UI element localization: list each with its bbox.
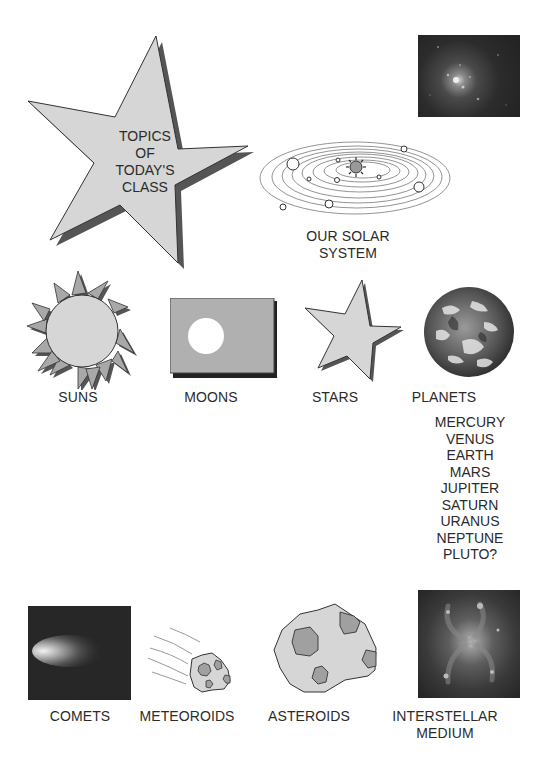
sun-graphic: [20, 265, 145, 390]
meteoroid-icon: [140, 620, 250, 700]
comet-photo: [28, 606, 131, 700]
title-line: CLASS: [116, 179, 175, 196]
title-line: TOPICS: [116, 128, 175, 145]
meteoroids-label: METEOROIDS: [139, 708, 234, 725]
planet-list: MERCURY VENUS EARTH MARS JUPITER SATURN …: [435, 414, 506, 563]
comets-label: COMETS: [50, 708, 111, 725]
spiral-arms-icon: [418, 590, 520, 698]
solar-system-icon: [255, 135, 455, 225]
asteroids-label: ASTEROIDS: [268, 708, 350, 725]
planet-uranus: URANUS: [435, 513, 506, 530]
label-line: OUR SOLAR: [306, 228, 389, 245]
sun-icon: [20, 265, 145, 390]
planet-venus: VENUS: [435, 431, 506, 448]
label-line: SYSTEM: [306, 245, 389, 262]
stars-label: STARS: [312, 389, 358, 406]
moon-graphic: [170, 298, 280, 382]
planet-mercury: MERCURY: [435, 414, 506, 431]
earth-graphic: [422, 286, 516, 380]
planet-mars: MARS: [435, 464, 506, 481]
asteroid-graphic: [270, 600, 385, 700]
meteoroid-graphic: [140, 620, 250, 700]
label-line: INTERSTELLAR: [392, 708, 497, 725]
star-icon: [300, 275, 410, 385]
title-star-text: TOPICS OF TODAY'S CLASS: [116, 128, 175, 196]
comet-icon: [28, 606, 131, 700]
solar-system-label: OUR SOLAR SYSTEM: [306, 228, 389, 262]
star-dots-icon: [418, 35, 520, 117]
title-line: OF: [116, 145, 175, 162]
star-cluster-photo: [418, 35, 520, 117]
title-line: TODAY'S: [116, 162, 175, 179]
moon-icon: [170, 298, 280, 382]
moons-label: MOONS: [184, 389, 237, 406]
planet-earth: EARTH: [435, 447, 506, 464]
earth-icon: [422, 286, 516, 380]
star-graphic: [300, 275, 410, 385]
planets-label: PLANETS: [412, 389, 477, 406]
planet-saturn: SATURN: [435, 497, 506, 514]
planet-pluto: PLUTO?: [435, 546, 506, 563]
suns-label: SUNS: [58, 389, 97, 406]
interstellar-medium-label: INTERSTELLAR MEDIUM: [392, 708, 497, 742]
solar-system-diagram: [255, 135, 455, 225]
planet-neptune: NEPTUNE: [435, 530, 506, 547]
label-line: MEDIUM: [392, 725, 497, 742]
galaxy-photo: [418, 590, 520, 698]
planet-jupiter: JUPITER: [435, 480, 506, 497]
asteroid-icon: [270, 600, 385, 700]
